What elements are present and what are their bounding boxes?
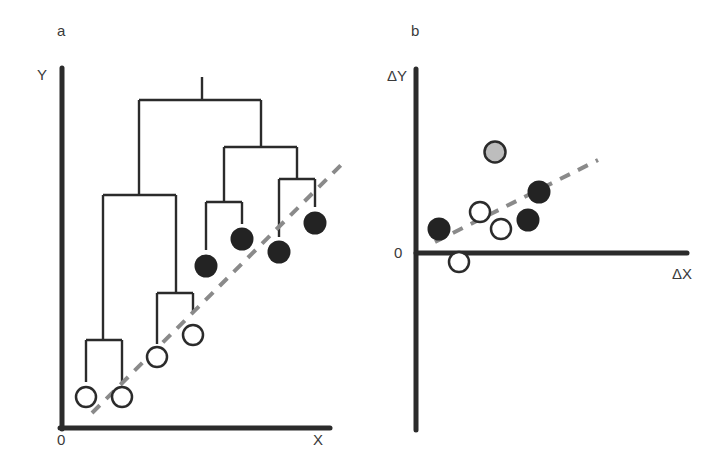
filled-circle [528, 181, 551, 204]
open-circle [147, 347, 167, 367]
open-circle [470, 202, 490, 222]
origin-label-a: 0 [57, 431, 65, 448]
delta-y-axis-label: ΔY [387, 67, 407, 84]
filled-circles-a [195, 212, 327, 278]
filled-circle [304, 212, 327, 235]
filled-circle [268, 241, 291, 264]
open-circles-b [449, 202, 511, 272]
filled-circle [428, 218, 451, 241]
origin-label-b: 0 [394, 244, 402, 261]
y-axis-label: Y [37, 66, 47, 83]
open-circle [112, 387, 132, 407]
trend-line-b [435, 160, 598, 242]
panel-a: a Y 0 X [37, 22, 343, 448]
open-circle [449, 252, 469, 272]
filled-circle [517, 209, 540, 232]
x-axis-label: X [313, 431, 323, 448]
open-circle [491, 219, 511, 239]
open-circle [183, 325, 203, 345]
panel-b-label: b [411, 22, 419, 39]
trend-line-a [92, 163, 343, 413]
filled-circle [231, 228, 254, 251]
figure-canvas: a Y 0 X [0, 0, 728, 466]
panel-b: b ΔY 0 ΔX [387, 22, 692, 430]
gray-circle [485, 142, 506, 163]
delta-x-axis-label: ΔX [672, 265, 692, 282]
panel-a-label: a [57, 22, 66, 39]
filled-circle [195, 255, 218, 278]
open-circle [76, 387, 96, 407]
